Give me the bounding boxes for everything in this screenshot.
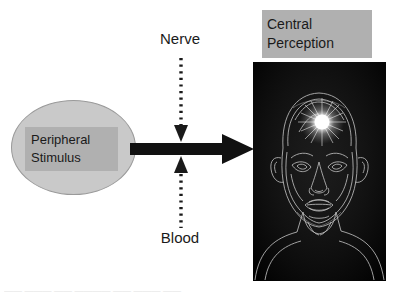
blood-dotted-arrow xyxy=(168,156,194,230)
peripheral-stimulus-label-line1: Peripheral xyxy=(31,131,90,149)
blood-label: Blood xyxy=(130,229,230,246)
peripheral-stimulus-label-line2: Stimulus xyxy=(31,149,81,167)
cut-off-caption: —— ——— —— ———— —— ——— —— xyxy=(4,286,304,294)
central-perception-label-line2: Perception xyxy=(267,34,334,53)
central-perception-label-line1: Central xyxy=(267,15,312,34)
figure-canvas: Peripheral Stimulus Nerve Blood Central … xyxy=(0,0,396,294)
head-outline-image xyxy=(253,62,386,281)
peripheral-stimulus-label-box: Peripheral Stimulus xyxy=(25,127,118,171)
central-perception-label-box: Central Perception xyxy=(262,10,372,58)
nerve-dotted-arrow xyxy=(168,56,194,144)
forehead-glow xyxy=(298,98,346,146)
nerve-label: Nerve xyxy=(130,30,230,47)
